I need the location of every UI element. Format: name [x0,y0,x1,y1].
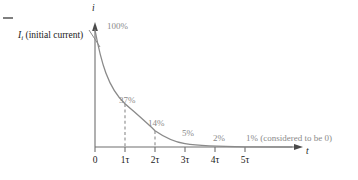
y-axis-label: i [92,4,95,14]
initial-current-subscript: i [21,34,23,42]
label-14-percent: 14% [148,119,165,128]
label-5-percent: 5% [182,129,194,138]
plot-canvas [0,0,358,180]
x-tick-label-3tau: 3τ [175,156,195,166]
exponential-decay-figure: Ii (initial current) 100% 37% 14% 5% 2% … [0,0,358,180]
x-axis-label: t [306,147,309,157]
initial-current-label: Ii (initial current) [18,31,83,42]
x-tick-label-2tau: 2τ [145,156,165,166]
label-37-percent: 37% [119,96,136,105]
x-axis-ticks [95,147,245,152]
x-tick-label-0: 0 [85,156,105,166]
x-tick-label-5tau: 5τ [235,156,255,166]
label-residual-note: 1% (considered to be 0) [246,134,332,143]
label-2-percent: 2% [213,134,225,143]
initial-current-text: (initial current) [26,30,84,40]
x-tick-label-4tau: 4τ [205,156,225,166]
label-100-percent: 100% [107,22,128,31]
x-axis-arrowhead [294,144,303,150]
x-tick-label-1tau: 1τ [115,156,135,166]
